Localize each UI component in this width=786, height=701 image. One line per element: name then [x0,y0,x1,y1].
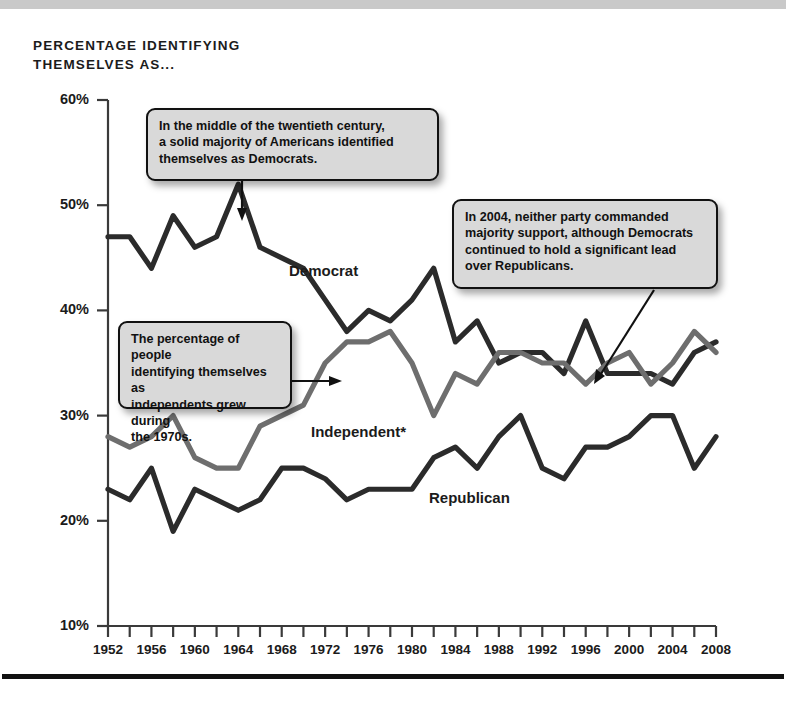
x-axis-label: 1956 [129,642,173,657]
x-axis-label: 2000 [607,642,651,657]
leader-2004 [601,290,654,374]
series-label-republican: Republican [429,489,510,506]
x-axis-label: 1964 [216,642,260,657]
x-axis-label: 1992 [520,642,564,657]
callout-democrat-majority: In the middle of the twentieth century, … [146,108,439,181]
x-axis-label: 1960 [173,642,217,657]
x-axis-label: 2008 [694,642,738,657]
x-axis-label: 1984 [433,642,477,657]
y-axis-label: 50% [37,196,89,212]
x-axis-label: 1988 [477,642,521,657]
y-axis-label: 40% [37,301,89,317]
leader-independent-arrow [329,376,342,386]
x-axis-label: 1968 [260,642,304,657]
y-tick-marks [97,100,108,626]
y-axis-label: 30% [37,407,89,423]
x-tick-marks [108,626,716,637]
x-axis-label: 1952 [86,642,130,657]
x-axis-label: 1976 [347,642,391,657]
series-label-independent: Independent* [311,423,406,440]
callout-independents-1970s: The percentage of people identifying the… [118,321,292,409]
callout-democrat-majority-text: In the middle of the twentieth century, … [159,118,426,167]
x-axis-label: 1972 [303,642,347,657]
callout-independents-1970s-text: The percentage of people identifying the… [131,331,279,446]
callout-year-2004-text: In 2004, neither party commanded majorit… [465,209,705,275]
bottom-rule [2,674,784,679]
x-axis-label: 1980 [390,642,434,657]
leader-democrat-arrow [237,208,247,221]
y-axis-label: 20% [37,512,89,528]
y-axis-label: 10% [37,617,89,633]
x-axis-label: 1996 [564,642,608,657]
x-axis-label: 2004 [651,642,695,657]
callout-year-2004: In 2004, neither party commanded majorit… [452,199,718,289]
y-axis-label: 60% [37,91,89,107]
series-label-democrat: Democrat [289,262,358,279]
